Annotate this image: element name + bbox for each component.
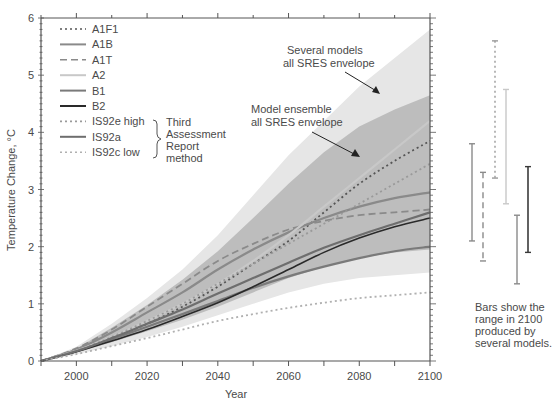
y-tick-label: 2 [28,241,34,253]
x-axis-label: Year [225,388,248,400]
x-tick-label: 2000 [64,370,88,382]
legend-label: A1B [92,38,113,50]
brace-icon [153,120,161,158]
x-tick-label: 2020 [135,370,159,382]
annotation-text: Model ensemble [251,103,332,115]
y-tick-label: 5 [28,69,34,81]
legend-label: A1T [92,54,112,66]
y-tick-label: 0 [28,355,34,367]
y-tick-label: 1 [28,298,34,310]
range-bars-2100 [469,41,531,284]
x-tick-label: 2040 [206,370,230,382]
legend-label: B2 [92,100,105,112]
legend-label: A2 [92,69,105,81]
brace-label: Report [166,140,199,152]
legend-label: IS92e high [92,115,145,127]
legend-label: A1F1 [92,23,118,35]
x-tick-label: 2080 [347,370,371,382]
legend-label: IS92c low [92,146,140,158]
y-axis-label: Temperature Change, °C [5,129,17,251]
x-tick-label: 2060 [276,370,300,382]
note-line: several models. [475,337,552,349]
temperature-projection-chart: 0123456200020202040206020802100 A1F1A1BA… [0,0,556,408]
brace-label: method [166,152,203,164]
y-tick-label: 3 [28,184,34,196]
brace-label: Third [166,116,191,128]
note-line: range in 2100 [475,313,542,325]
legend: A1F1A1BA1TA2B1B2IS92e highIS92aIS92c low… [60,23,226,164]
y-tick-label: 4 [28,126,34,138]
x-tick-label: 2100 [418,370,442,382]
annotation-text: all SRES envelope [283,57,375,69]
note-line: Bars show the [475,301,545,313]
annotation-text: all SRES envelope [251,116,343,128]
legend-label: IS92a [92,131,122,143]
note-line: produced by [475,325,536,337]
bars-note: Bars show the range in 2100 produced by … [475,301,552,349]
y-tick-label: 6 [28,12,34,24]
brace-label: Assessment [166,128,226,140]
annotation-text: Several models [287,44,363,56]
legend-label: B1 [92,85,105,97]
